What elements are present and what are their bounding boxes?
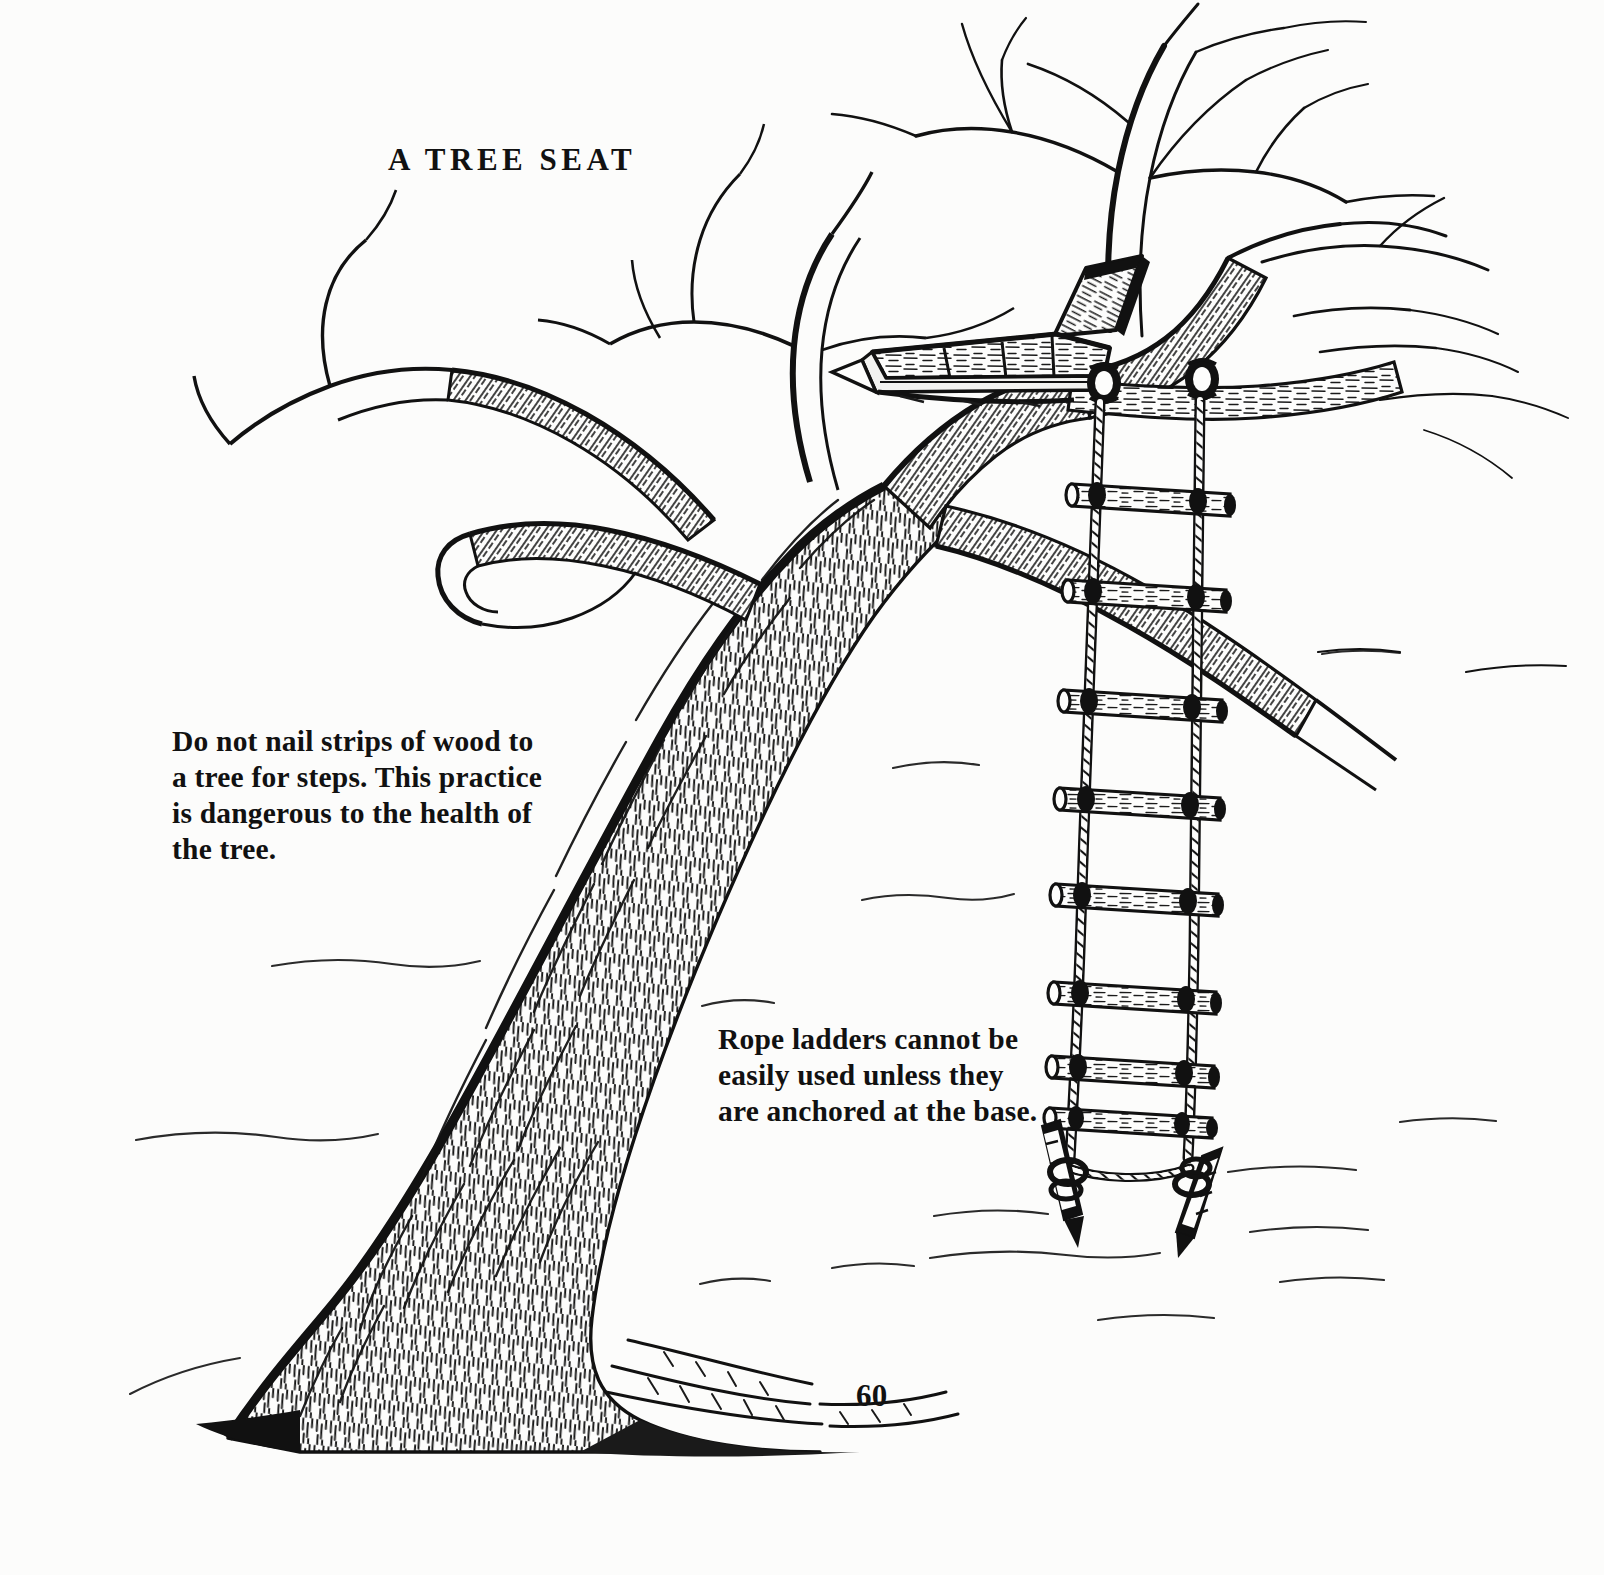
rope-knot-right (1185, 358, 1219, 400)
caption-no-nail-warning: Do not nail strips of wood to a tree for… (172, 723, 542, 867)
page-number: 60 (856, 1378, 887, 1414)
page-title: A TREE SEAT (388, 142, 636, 178)
rope-knot-left (1087, 362, 1121, 404)
caption-rope-ladder-note: Rope ladders cannot be easily used unles… (718, 1021, 1037, 1129)
illustration-page: A TREE SEAT Do not nail strips of wood t… (0, 0, 1604, 1575)
